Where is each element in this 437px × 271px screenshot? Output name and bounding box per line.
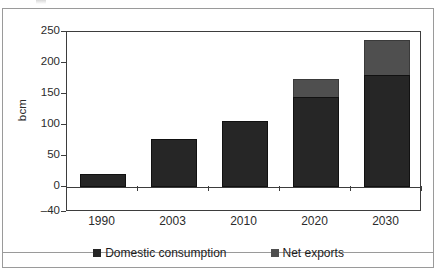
x-tick-mark xyxy=(421,186,422,191)
y-tick-label-wrap: 250 xyxy=(14,31,60,32)
y-tick-mark xyxy=(61,211,66,212)
legend-swatch-icon-domestic xyxy=(93,249,101,257)
bar-segment-domestic-consumption xyxy=(151,139,197,187)
chart-legend: Domestic consumption Net exports xyxy=(0,247,437,259)
y-tick-label: 50 xyxy=(14,149,60,161)
y-tick-label: 0 xyxy=(14,180,60,192)
x-tick-label-2003: 2003 xyxy=(143,215,203,227)
y-tick-label-wrap: –40 xyxy=(14,211,60,212)
x-tick-mark xyxy=(350,186,351,191)
y-tick-label-wrap: 0 xyxy=(14,186,60,187)
x-tick-mark xyxy=(137,186,138,191)
zero-baseline xyxy=(67,187,420,188)
page-artifact xyxy=(36,0,46,4)
y-tick-label: 100 xyxy=(14,118,60,130)
legend-label-domestic: Domestic consumption xyxy=(105,247,226,259)
bar-2020 xyxy=(293,79,339,188)
y-tick-label: 250 xyxy=(14,25,60,37)
y-tick-label: –40 xyxy=(14,205,60,217)
bar-2030 xyxy=(364,40,410,187)
bar-segment-domestic-consumption xyxy=(80,174,126,187)
x-tick-mark xyxy=(66,186,67,191)
bar-segment-domestic-consumption xyxy=(222,121,268,187)
y-tick-label: 200 xyxy=(14,56,60,68)
x-tick-label-2010: 2010 xyxy=(214,215,274,227)
y-tick-label-wrap: 150 xyxy=(14,93,60,94)
plot-area xyxy=(66,31,421,211)
y-tick-label: 150 xyxy=(14,87,60,99)
legend-swatch-icon-exports xyxy=(271,249,279,257)
bar-2010 xyxy=(222,121,268,187)
y-tick-label-wrap: 50 xyxy=(14,155,60,156)
bar-2003 xyxy=(151,139,197,187)
bar-segment-net-exports xyxy=(364,40,410,75)
bar-1990 xyxy=(80,174,126,187)
legend-item-domestic-consumption[interactable]: Domestic consumption xyxy=(93,247,226,259)
y-tick-label-wrap: 100 xyxy=(14,124,60,125)
x-tick-label-2020: 2020 xyxy=(285,215,345,227)
chart-figure: bcm 250200150100500–40 19902003201020202… xyxy=(0,0,437,271)
x-tick-label-2030: 2030 xyxy=(356,215,416,227)
legend-item-net-exports[interactable]: Net exports xyxy=(271,247,344,259)
y-tick-label-wrap: 200 xyxy=(14,62,60,63)
bar-segment-domestic-consumption xyxy=(364,75,410,187)
bar-segment-net-exports xyxy=(293,79,339,98)
x-tick-label-1990: 1990 xyxy=(72,215,132,227)
legend-label-exports: Net exports xyxy=(283,247,344,259)
bar-segment-domestic-consumption xyxy=(293,97,339,187)
x-tick-mark xyxy=(279,186,280,191)
x-tick-mark xyxy=(208,186,209,191)
